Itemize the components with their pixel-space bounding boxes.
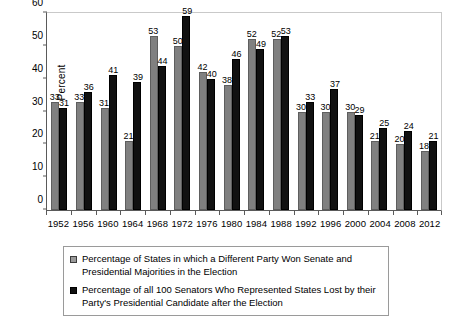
bar-value-label: 31 [99, 99, 109, 108]
chart-legend: Percentage of States in which a Differen… [63, 246, 389, 316]
x-axis-tick-text: 2000 [345, 218, 366, 229]
bar-series-b: 29 [355, 115, 363, 210]
x-axis-tick-mark [417, 211, 418, 215]
x-axis-tick-label: 1964 [120, 211, 145, 237]
bar-series-b: 21 [429, 141, 437, 210]
bar-series-b: 25 [379, 128, 387, 210]
legend-label-series-a-line1: Percentage of States in which a Differen… [82, 253, 352, 264]
bar-group: 3033 [293, 13, 318, 210]
bar-series-b: 24 [404, 131, 412, 210]
bar-value-label: 24 [404, 122, 414, 131]
bar-group: 2139 [121, 13, 146, 210]
x-axis-tick-label: 1968 [145, 211, 170, 237]
bar-series-b: 39 [133, 82, 141, 210]
x-axis-tick-mark [120, 211, 121, 215]
bar-series-a: 30 [347, 112, 355, 211]
x-axis-tick-mark [195, 211, 196, 215]
bar-series-b: 46 [232, 59, 240, 210]
bar-value-label: 39 [133, 73, 143, 82]
x-axis-tick-mark [368, 211, 369, 215]
bar-series-b: 33 [306, 102, 314, 210]
bar-series-b: 31 [59, 108, 67, 210]
y-axis-tick-label: 20 [32, 128, 43, 139]
y-axis-tick-label: 30 [32, 95, 43, 106]
bar-value-label: 21 [124, 132, 134, 141]
bar-value-label: 44 [158, 57, 168, 66]
bar-value-label: 38 [222, 76, 232, 85]
bar-series-a: 52 [273, 39, 281, 210]
bar-group: 2125 [367, 13, 392, 210]
bar-value-label: 46 [231, 50, 241, 59]
x-axis-tick-label: 1952 [46, 211, 71, 237]
x-axis-tick-text: 1968 [147, 218, 168, 229]
bar-series-b: 49 [256, 49, 264, 210]
bar-value-label: 33 [74, 93, 84, 102]
legend-label-series-a: Percentage of States in which a Differen… [82, 253, 352, 278]
bar-series-a: 30 [322, 112, 330, 211]
legend-label-series-a-line2: Presidential Majorities in the Election [82, 266, 237, 277]
legend-swatch-icon-series-b [70, 287, 77, 294]
y-axis-tick-label: 60 [32, 0, 43, 8]
x-axis-tick-label: 2000 [343, 211, 368, 237]
x-axis-tick-label: 1992 [294, 211, 319, 237]
bar-group: 3846 [219, 13, 244, 210]
x-axis-tick-mark [46, 211, 47, 215]
bar-group: 3037 [318, 13, 343, 210]
legend-item-series-b: Percentage of all 100 Senators Who Repre… [70, 284, 381, 309]
bar-series-b: 36 [84, 92, 92, 210]
x-axis-tick-label: 1960 [96, 211, 121, 237]
legend-label-series-b: Percentage of all 100 Senators Who Repre… [82, 284, 376, 309]
x-axis-tick-mark [96, 211, 97, 215]
bar-value-label: 49 [256, 40, 266, 49]
x-axis-tick-text: 1964 [122, 218, 143, 229]
bar-value-label: 36 [84, 83, 94, 92]
bars-layer: 3331333631412139534450594240384652495253… [47, 13, 441, 210]
x-axis-tick-text: 1952 [48, 218, 69, 229]
x-axis-labels: 1952195619601964196819721976198019841988… [46, 211, 442, 237]
bar-group: 5344 [146, 13, 171, 210]
y-axis-tick-label: 10 [32, 161, 43, 172]
x-axis-tick-text: 2004 [370, 218, 391, 229]
bar-series-b: 59 [182, 16, 190, 210]
bar-value-label: 21 [428, 132, 438, 141]
bar-group: 2024 [392, 13, 417, 210]
bar-value-label: 53 [148, 27, 158, 36]
x-axis-tick-text: 1996 [320, 218, 341, 229]
bar-group: 3331 [47, 13, 72, 210]
x-axis-tick-mark [343, 211, 344, 215]
bar-series-a: 30 [298, 112, 306, 211]
bar-group: 1821 [416, 13, 441, 210]
x-axis-tick-text: 1960 [97, 218, 118, 229]
x-axis-tick-mark [244, 211, 245, 215]
x-axis-tick-mark [219, 211, 220, 215]
x-axis-tick-text: 1972 [172, 218, 193, 229]
x-axis-tick-label: 2004 [368, 211, 393, 237]
bar-series-a: 42 [199, 72, 207, 210]
x-axis-tick-mark [441, 211, 442, 215]
bar-group: 3141 [96, 13, 121, 210]
bar-series-a: 33 [76, 102, 84, 210]
x-axis-tick-label: 1980 [219, 211, 244, 237]
x-axis-tick-text: 1988 [271, 218, 292, 229]
bar-group: 3336 [72, 13, 97, 210]
x-axis-tick-text: 1956 [73, 218, 94, 229]
x-axis-tick-label: 1988 [269, 211, 294, 237]
x-axis-tick-text: 1992 [295, 218, 316, 229]
x-axis-tick-mark [393, 211, 394, 215]
bar-series-a: 18 [421, 151, 429, 210]
bar-value-label: 25 [379, 119, 389, 128]
bar-value-label: 53 [281, 27, 291, 36]
legend-swatch-icon-series-a [70, 256, 77, 263]
x-axis-tick-mark [294, 211, 295, 215]
x-axis-tick-text: 1984 [246, 218, 267, 229]
bar-series-b: 40 [207, 79, 215, 210]
y-axis-tick-label: 40 [32, 62, 43, 73]
bar-group: 4240 [195, 13, 220, 210]
bar-series-b: 44 [158, 66, 166, 210]
bar-series-a: 20 [396, 144, 404, 210]
legend-label-series-b-line2: Party's Presidential Candidate after the… [82, 297, 283, 308]
plot-area: Percent 0102030405060 333133363141213953… [46, 12, 442, 211]
bar-series-b: 37 [330, 89, 338, 210]
bar-group: 5253 [269, 13, 294, 210]
bar-series-a: 52 [248, 39, 256, 210]
